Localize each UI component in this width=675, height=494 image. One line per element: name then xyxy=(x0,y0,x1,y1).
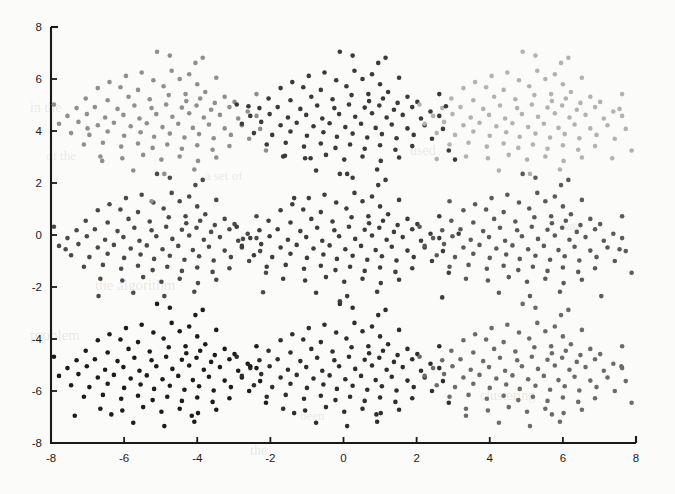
data-point xyxy=(278,375,283,380)
outlier-point xyxy=(308,156,313,161)
y-tick-label: 6 xyxy=(36,73,42,85)
outlier-point xyxy=(440,295,445,300)
outlier-point xyxy=(261,290,266,295)
data-point xyxy=(144,121,149,126)
data-point xyxy=(69,383,74,388)
data-point xyxy=(236,116,241,121)
data-point xyxy=(195,204,200,209)
data-point xyxy=(195,82,200,87)
data-point xyxy=(530,224,535,229)
data-point xyxy=(440,358,445,363)
data-point xyxy=(598,222,603,227)
data-point xyxy=(484,85,489,90)
data-point xyxy=(580,75,585,80)
data-point xyxy=(461,208,466,213)
data-point xyxy=(533,53,538,58)
data-point xyxy=(138,252,143,257)
data-point xyxy=(525,280,530,285)
data-point xyxy=(450,364,455,369)
data-point xyxy=(298,359,303,364)
data-point xyxy=(76,242,81,247)
data-point xyxy=(345,294,350,299)
data-point xyxy=(517,387,522,392)
data-point xyxy=(270,255,275,260)
data-point xyxy=(214,407,219,412)
data-point xyxy=(580,277,585,282)
data-point xyxy=(74,228,79,233)
data-point xyxy=(611,361,616,366)
data-point xyxy=(535,191,540,196)
data-point xyxy=(214,75,219,80)
data-point xyxy=(370,324,375,329)
data-point xyxy=(166,345,171,350)
data-point xyxy=(352,321,357,326)
data-point xyxy=(126,94,131,99)
data-point xyxy=(57,121,62,126)
data-point xyxy=(305,133,310,138)
data-point xyxy=(594,133,599,138)
data-point xyxy=(359,121,364,126)
data-point xyxy=(187,324,192,329)
data-point xyxy=(405,126,410,131)
data-point xyxy=(200,308,205,313)
data-point xyxy=(194,103,199,108)
data-point xyxy=(447,142,452,147)
data-point xyxy=(569,342,574,347)
data-point xyxy=(121,365,126,370)
data-point xyxy=(207,122,212,127)
data-point xyxy=(240,244,245,249)
data-point xyxy=(105,98,110,103)
data-point xyxy=(503,116,508,121)
data-point xyxy=(348,264,353,269)
outlier-point xyxy=(447,199,452,204)
data-point xyxy=(294,373,299,378)
data-point xyxy=(506,153,511,158)
data-point xyxy=(304,113,309,118)
data-point xyxy=(76,372,81,377)
data-point xyxy=(466,140,471,145)
data-point xyxy=(353,114,358,119)
data-point xyxy=(516,146,521,151)
data-point xyxy=(141,153,146,158)
data-point xyxy=(311,246,316,251)
data-point xyxy=(583,113,588,118)
data-point xyxy=(138,382,143,387)
data-point xyxy=(267,112,272,117)
data-point xyxy=(528,172,533,177)
data-point xyxy=(623,249,628,254)
data-point xyxy=(405,248,410,253)
data-point xyxy=(528,294,533,299)
data-point xyxy=(548,135,553,140)
data-point xyxy=(527,206,532,211)
data-point xyxy=(227,357,232,362)
data-point xyxy=(288,98,293,103)
data-point xyxy=(485,397,490,402)
data-point xyxy=(405,378,410,383)
data-point xyxy=(203,342,208,347)
data-point xyxy=(370,194,375,199)
data-point xyxy=(378,204,383,209)
data-point xyxy=(115,359,120,364)
data-point xyxy=(126,347,131,352)
data-point xyxy=(449,218,454,223)
data-point xyxy=(144,243,149,248)
data-point xyxy=(65,114,70,119)
data-point xyxy=(553,233,558,238)
data-point xyxy=(321,382,326,387)
data-point xyxy=(362,228,367,233)
data-point xyxy=(505,192,510,197)
data-point xyxy=(492,347,497,352)
data-point xyxy=(311,376,316,381)
x-tick-label: 8 xyxy=(633,452,639,464)
y-tick-label: -8 xyxy=(32,437,42,449)
data-point xyxy=(405,94,410,99)
data-point xyxy=(588,378,593,383)
data-point xyxy=(376,61,381,66)
data-point xyxy=(315,103,320,108)
data-point xyxy=(533,306,538,311)
data-point xyxy=(506,275,511,280)
data-point xyxy=(180,146,185,151)
data-point xyxy=(560,225,565,230)
data-point xyxy=(567,115,572,120)
data-point xyxy=(330,349,335,354)
